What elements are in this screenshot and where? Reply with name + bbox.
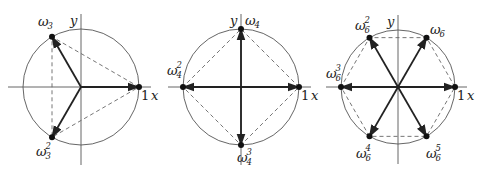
- figure-svg: y1xω3ω32y1xω4ω42ω43y1xω6ω62ω63ω64ω65: [0, 0, 484, 173]
- root-label-subscript: 6: [436, 153, 442, 163]
- root-vector: [398, 38, 427, 87]
- y-axis-label: y: [386, 14, 395, 29]
- one-label: 1: [457, 88, 465, 103]
- root-label-subscript: 3: [48, 21, 53, 31]
- x-axis-label: x: [311, 88, 319, 103]
- y-axis-label: y: [229, 13, 238, 28]
- root-point: [180, 84, 186, 90]
- root-label-subscript: 4: [246, 157, 252, 167]
- y-axis-label: y: [69, 13, 78, 28]
- cube-roots-of-unity: y1xω3ω32: [8, 13, 159, 165]
- root-label-subscript: 6: [440, 29, 446, 39]
- root-label-superscript: 3: [247, 147, 252, 157]
- root-label-subscript: 6: [366, 153, 372, 163]
- root-label-subscript: 6: [365, 25, 371, 35]
- root-point: [338, 84, 344, 90]
- root-label-superscript: 2: [364, 15, 370, 25]
- root-point: [49, 134, 55, 140]
- root-label-superscript: 3: [336, 63, 341, 73]
- root-point: [424, 133, 430, 139]
- root-vector: [52, 87, 81, 137]
- root-label-superscript: 5: [436, 143, 441, 153]
- root-label-superscript: 2: [176, 60, 182, 70]
- root-vector: [370, 38, 399, 87]
- root-point: [49, 34, 55, 40]
- one-label: 1: [141, 88, 149, 103]
- root-point: [424, 35, 430, 41]
- x-axis-label: x: [151, 88, 159, 103]
- root-point: [238, 142, 244, 148]
- roots-of-unity-figure: y1xω3ω32y1xω4ω42ω43y1xω6ω62ω63ω64ω65: [0, 0, 484, 173]
- root-label-subscript: 4: [254, 20, 260, 30]
- root-label-subscript: 3: [46, 151, 51, 161]
- root-vector: [370, 87, 399, 136]
- sixth-roots-of-unity: y1xω6ω62ω63ω64ω65: [326, 14, 475, 164]
- fourth-roots-of-unity: y1xω4ω42ω43: [167, 13, 319, 167]
- one-label: 1: [301, 88, 309, 103]
- x-axis-label: x: [467, 88, 475, 103]
- root-label-subscript: 4: [176, 70, 182, 80]
- root-point: [367, 133, 373, 139]
- root-vector: [52, 37, 81, 87]
- root-point: [367, 35, 373, 41]
- root-vector: [398, 87, 427, 136]
- root-label-subscript: 6: [336, 73, 342, 83]
- root-point: [238, 26, 244, 32]
- root-label-superscript: 4: [365, 143, 371, 153]
- root-label-superscript: 2: [45, 141, 51, 151]
